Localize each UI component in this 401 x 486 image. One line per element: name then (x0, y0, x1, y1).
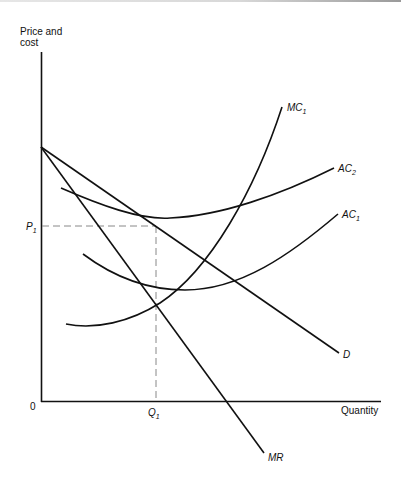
mr-label: MR (268, 452, 284, 463)
y-axis-label-line1: Price and (20, 26, 62, 37)
mc1-label: MC1 (287, 102, 307, 115)
p1-label: P1 (26, 221, 37, 234)
origin-label: 0 (30, 401, 36, 412)
monopoly-cost-diagram: Price and cost Quantity 0 P1 Q1 MC1 AC2 … (0, 0, 401, 486)
marginal-cost-1-curve (66, 107, 282, 326)
y-axis-label-line2: cost (20, 37, 39, 48)
average-cost-2-curve (61, 168, 334, 218)
x-axis-label: Quantity (341, 405, 378, 416)
ac2-label: AC2 (337, 163, 356, 176)
demand-label: D (343, 349, 350, 360)
demand-curve (41, 147, 339, 353)
q1-label: Q1 (148, 407, 160, 420)
ac1-label: AC1 (341, 209, 360, 222)
